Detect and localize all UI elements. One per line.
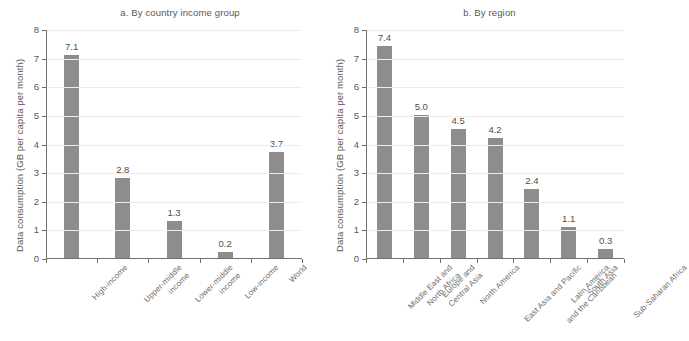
panel-b-x-axis-labels: Middle East andNorth AfricaEurope andCen…: [320, 0, 639, 341]
x-axis-category-label: Upper-middleincome: [142, 263, 192, 313]
x-axis-category-label: Sub-Saharan Africa: [631, 263, 689, 321]
panel-a-x-axis-labels: High-incomeUpper-middleincomeLower-middl…: [0, 0, 320, 341]
x-label-line: Low-income: [243, 263, 282, 302]
x-axis-category-label: Lower-middleincome: [193, 263, 243, 313]
x-label-line: Sub-Saharan Africa: [631, 263, 689, 321]
x-axis-category-label: Low-income: [243, 263, 282, 302]
chart-panel-a: a. By country income group Data consumpt…: [0, 0, 320, 341]
x-label-line: North America: [478, 263, 522, 307]
x-axis-category-label: High-income: [90, 263, 130, 303]
x-label-line: High-income: [90, 263, 130, 303]
x-axis-category-label: World: [288, 263, 311, 286]
x-axis-category-label: North America: [478, 263, 522, 307]
chart-panel-b: b. By region Data consumption (GB per ca…: [320, 0, 639, 341]
x-label-line: World: [288, 263, 311, 286]
